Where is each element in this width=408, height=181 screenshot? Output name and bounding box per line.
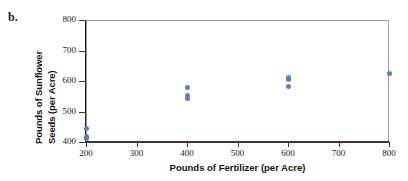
x-tick-mark [389,142,390,147]
y-tick-label: 700 [50,45,76,55]
x-tick-mark [288,142,289,147]
plot-area [86,20,389,142]
x-tick-mark [137,142,138,147]
y-axis-title-line1: Pounds of Sunflower [33,51,44,144]
scatter-plot-figure: b. Pounds of Sunflower Seeds (per Acre) … [0,0,408,181]
y-axis-title: Pounds of Sunflower Seeds (per Acre) [22,16,38,144]
data-point [84,126,89,131]
y-tick-label: 600 [50,75,76,85]
panel-letter: b. [8,10,18,25]
y-tick-label: 400 [50,136,76,146]
y-tick-mark [79,81,86,82]
data-point [286,75,291,80]
x-tick-label: 800 [372,148,406,158]
x-tick-label: 300 [120,148,154,158]
y-tick-mark [79,20,86,21]
y-tick-mark [79,51,86,52]
x-tick-mark [86,142,87,147]
x-tick-label: 700 [322,148,356,158]
scan-artifact [0,0,408,6]
x-tick-label: 400 [170,148,204,158]
x-tick-mark [187,142,188,147]
y-tick-label: 500 [50,106,76,116]
data-point [84,134,89,139]
data-point [387,71,392,76]
x-tick-label: 200 [69,148,103,158]
x-tick-label: 500 [221,148,255,158]
y-tick-mark [79,112,86,113]
y-tick-label: 800 [50,14,76,24]
x-axis-title: Pounds of Fertilizer (per Acre) [86,162,389,173]
data-point [286,84,291,89]
x-tick-mark [238,142,239,147]
x-tick-mark [339,142,340,147]
data-point [185,93,190,98]
data-point [185,85,190,90]
x-tick-label: 600 [271,148,305,158]
y-tick-mark [79,142,86,143]
